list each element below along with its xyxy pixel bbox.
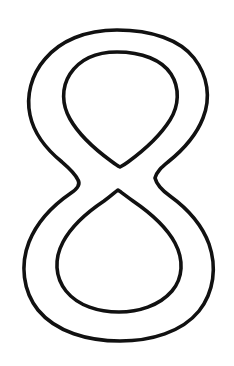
digit-eight-figure: Bold outline drawing of the numeral eigh… (0, 0, 234, 366)
canvas-root: Bold outline drawing of the numeral eigh… (0, 0, 234, 366)
